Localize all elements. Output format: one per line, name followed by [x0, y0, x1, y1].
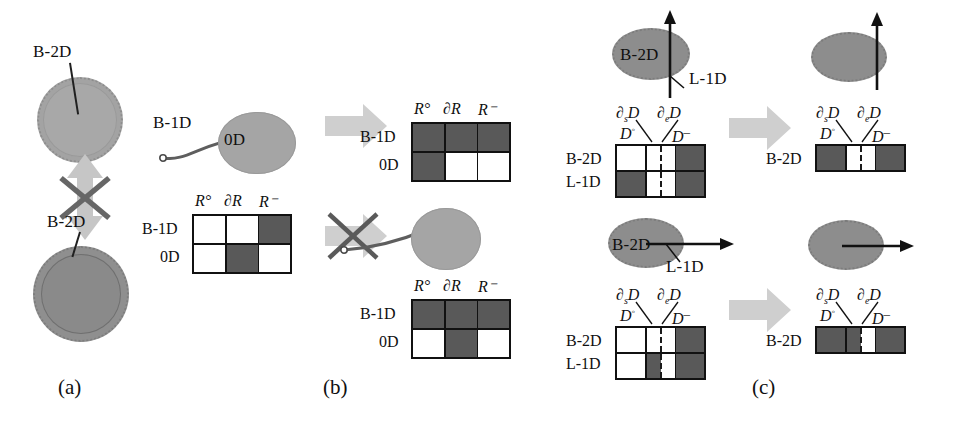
panel-label-c: (c)	[752, 375, 775, 400]
panel-c-top-matrix	[615, 144, 706, 198]
panel-c-top-arrow	[727, 102, 793, 154]
panel-label-b: (b)	[323, 375, 348, 400]
panel-b-result-top-matrix	[411, 122, 511, 182]
matrix-cell	[676, 172, 704, 196]
matrix-cell	[413, 330, 444, 357]
matrix-cell-split	[647, 146, 675, 170]
matrix-cell	[446, 330, 477, 357]
matrix-cell-split	[647, 172, 675, 196]
matrix-cell-half-left	[647, 146, 661, 170]
matrix-cell	[617, 354, 645, 378]
matrix-cell	[194, 216, 225, 243]
matrix-cell-half-right	[861, 146, 875, 170]
matrix-cell	[446, 301, 477, 328]
panel-c-bottom-result-matrix	[815, 326, 906, 354]
panel-c-top-result-col-header-lower-0: D◦	[820, 124, 835, 143]
panel-b-result-bottom-matrix	[411, 299, 511, 359]
panel-b-source-col-header-2: R⁻	[259, 192, 277, 211]
panel-c-bottom-col-header-lower-0: D◦	[620, 306, 635, 325]
panel-b-result-bottom-col-header-1: ∂R	[443, 277, 461, 295]
matrix-cell	[446, 153, 477, 180]
matrix-cell-split	[647, 354, 675, 378]
panel-b-result-top-col-header-0: R°	[414, 100, 430, 118]
panel-label-a: (a)	[58, 375, 81, 400]
matrix-cell	[617, 146, 645, 170]
matrix-cell	[227, 216, 258, 243]
panel-c-bottom-row-header-1: L-1D	[566, 355, 601, 373]
matrix-cell-half-left	[647, 172, 661, 196]
panel-c-bottom-line-label: L-1D	[666, 258, 704, 275]
panel-b-blob-label: 0D	[224, 131, 245, 148]
matrix-cell-split	[847, 146, 875, 170]
panel-a-bottom-label: B-2D	[47, 213, 86, 230]
matrix-cell	[194, 245, 225, 272]
matrix-cell	[478, 124, 509, 151]
matrix-cell	[478, 153, 509, 180]
panel-c-top-line-L1D	[650, 8, 690, 100]
panel-c-top-header-leaders	[634, 118, 690, 144]
panel-b-source-row-header-0: B-1D	[142, 220, 178, 238]
matrix-cell	[478, 330, 509, 357]
panel-c-top-row-header-0: B-2D	[566, 150, 602, 168]
panel-a-top-circle-inner	[43, 83, 117, 157]
figure-canvas: B-2D B-2D (a) B-1D 0D R°	[0, 0, 959, 424]
panel-b-source-col-header-0: R°	[195, 192, 211, 210]
panel-a-top-circle	[37, 77, 123, 163]
panel-c-bottom-arrow	[727, 284, 793, 336]
panel-c: B-2D L-1D ∂sD ∂eD D◦ D– B-2D L-1D	[600, 0, 959, 424]
matrix-cell-half-right	[661, 172, 675, 196]
matrix-cell-half-left	[647, 354, 661, 378]
panel-b-result-bottom-row-header-1: 0D	[379, 333, 399, 351]
panel-b: B-1D 0D R° ∂R R⁻ B-1D 0D	[140, 0, 600, 424]
matrix-cell	[676, 354, 704, 378]
matrix-cell	[617, 172, 645, 196]
panel-c-bottom-header-leaders	[634, 300, 690, 326]
panel-b-result-bottom-col-header-2: R⁻	[478, 277, 496, 296]
matrix-cell-half-left	[847, 328, 861, 352]
matrix-cell-half-right	[861, 328, 875, 352]
panel-b-bottom-blob	[411, 208, 481, 270]
panel-b-result-bottom-col-header-0: R°	[414, 277, 430, 295]
matrix-cell-split	[847, 328, 875, 352]
panel-c-bottom-result-col-header-lower-0: D◦	[820, 306, 835, 325]
matrix-cell	[817, 328, 845, 352]
panel-c-top-result-header-leaders	[834, 118, 890, 144]
panel-c-top-line-label: L-1D	[689, 70, 727, 87]
panel-b-source-col-header-1: ∂R	[224, 192, 242, 210]
matrix-cell	[876, 146, 904, 170]
matrix-cell-half-left	[847, 146, 861, 170]
panel-c-bottom-result-line	[840, 232, 916, 264]
panel-c-bottom-row-header-0: B-2D	[566, 332, 602, 350]
panel-a-bottom-circle-inner	[41, 254, 121, 334]
matrix-cell	[413, 153, 444, 180]
panel-b-result-bottom-row-header-0: B-1D	[360, 305, 396, 323]
panel-b-result-top-row-header-0: B-1D	[360, 128, 396, 146]
matrix-cell	[413, 124, 444, 151]
panel-c-bottom-result-header-leaders	[834, 300, 890, 326]
matrix-cell	[817, 146, 845, 170]
matrix-cell	[617, 328, 645, 352]
matrix-cell	[413, 301, 444, 328]
panel-b-source-row-header-1: 0D	[160, 248, 180, 266]
panel-c-top-result-matrix	[815, 144, 906, 172]
panel-b-result-top-col-header-2: R⁻	[478, 100, 496, 119]
matrix-cell	[446, 124, 477, 151]
matrix-cell-split	[647, 328, 675, 352]
matrix-cell-half-right	[661, 354, 675, 378]
panel-b-result-top-row-header-1: 0D	[379, 156, 399, 174]
panel-b-result-top-col-header-1: ∂R	[443, 100, 461, 118]
panel-c-top-result-line	[864, 10, 890, 92]
matrix-cell	[676, 146, 704, 170]
matrix-cell	[227, 245, 258, 272]
panel-b-source-matrix	[192, 214, 292, 274]
matrix-cell	[676, 328, 704, 352]
matrix-cell	[259, 245, 290, 272]
panel-a-top-label: B-2D	[33, 43, 72, 60]
matrix-cell	[876, 328, 904, 352]
matrix-cell-half-right	[661, 146, 675, 170]
panel-c-top-col-header-lower-0: D◦	[620, 124, 635, 143]
panel-c-top-result-row-header: B-2D	[766, 150, 802, 168]
panel-c-top-row-header-1: L-1D	[566, 173, 601, 191]
panel-a-bottom-circle	[33, 246, 129, 342]
panel-c-bottom-result-row-header: B-2D	[766, 332, 802, 350]
